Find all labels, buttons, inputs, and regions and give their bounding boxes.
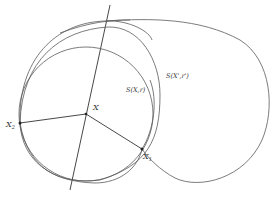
point-x2 xyxy=(19,122,22,125)
radius-x-x2 xyxy=(20,114,86,123)
geometry-diagram: X X2 X1 S(X,r) S(X',r') xyxy=(0,0,279,198)
label-s-x-r: S(X,r) xyxy=(126,86,146,94)
outer-arc-top xyxy=(20,21,152,123)
axis-line xyxy=(70,5,110,190)
label-x2: X2 xyxy=(5,120,15,130)
point-x xyxy=(85,113,88,116)
label-s-x-prime-r-prime: S(X',r') xyxy=(166,72,189,80)
point-x1 xyxy=(141,148,144,151)
outer-arc-bottom xyxy=(20,123,142,183)
radius-x-x1 xyxy=(86,114,142,149)
label-x1: X1 xyxy=(142,152,152,162)
curve-s-x-prime-r-prime xyxy=(106,20,269,183)
label-x: X xyxy=(92,103,99,112)
